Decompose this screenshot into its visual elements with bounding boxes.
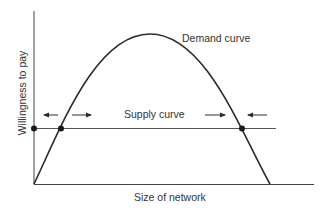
network-effects-diagram: Demand curve Supply curve Size of networ…: [0, 0, 329, 211]
demand-curve-label: Demand curve: [182, 33, 250, 44]
diagram-canvas: [0, 0, 329, 211]
supply-curve-label: Supply curve: [124, 109, 185, 120]
y-axis-label: Willingness to pay: [16, 51, 28, 136]
axis-equilibrium-dot: [31, 126, 37, 132]
stable-equilibrium-dot: [239, 126, 245, 132]
critical-mass-dot: [58, 126, 64, 132]
x-axis-label: Size of network: [134, 192, 206, 203]
